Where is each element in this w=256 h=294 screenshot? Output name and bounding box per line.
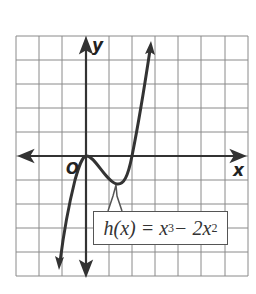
equation-callout: h(x) = x3− 2x2	[93, 211, 228, 245]
eq-middle: − 2x	[174, 217, 211, 240]
origin-label: O	[66, 160, 79, 178]
function-graph	[0, 0, 256, 294]
y-axis-label: y	[92, 35, 103, 55]
eq-exponent-2: 2	[211, 221, 217, 236]
eq-prefix: h(x) = x	[104, 217, 169, 240]
x-axis-label: x	[233, 160, 244, 180]
